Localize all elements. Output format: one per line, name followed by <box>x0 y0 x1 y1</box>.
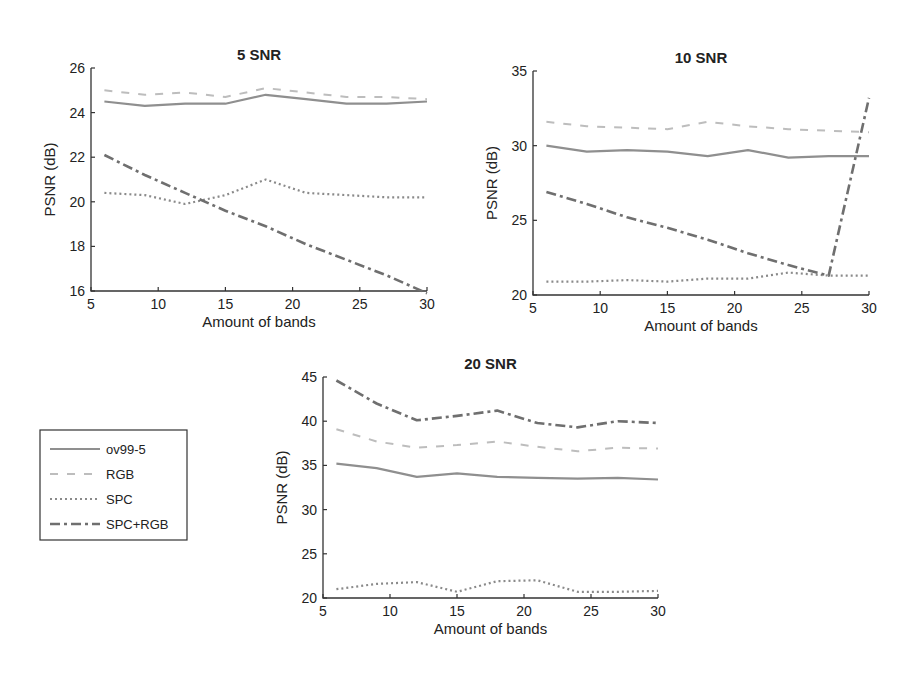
x-tick-label: 20 <box>727 300 743 316</box>
chart-title: 5 SNR <box>237 46 281 63</box>
x-tick-label: 20 <box>516 603 532 619</box>
y-tick-label: 26 <box>69 60 85 76</box>
x-tick-label: 30 <box>861 300 877 316</box>
x-tick-label: 15 <box>218 296 234 312</box>
chart-5-snr: 510152025301618202224265 SNRAmount of ba… <box>41 46 435 330</box>
y-axis-label: PSNR (dB) <box>483 146 500 220</box>
figure-canvas: 510152025301618202224265 SNRAmount of ba… <box>0 0 913 680</box>
x-tick-label: 30 <box>419 296 435 312</box>
series-line-ov99-5 <box>546 146 869 158</box>
series-line-spc <box>336 580 658 592</box>
x-tick-label: 10 <box>592 300 608 316</box>
legend-label: SPC+RGB <box>106 517 169 532</box>
y-axis-label: PSNR (dB) <box>41 142 58 216</box>
axes <box>323 377 658 598</box>
series-line-spc-rgb <box>104 155 427 293</box>
axes <box>533 71 869 295</box>
y-tick-label: 30 <box>301 502 317 518</box>
x-tick-label: 5 <box>87 296 95 312</box>
y-tick-label: 25 <box>511 212 527 228</box>
series-line-spc-rgb <box>546 98 869 276</box>
x-axis-label: Amount of bands <box>202 313 315 330</box>
series-line-rgb <box>336 429 658 451</box>
y-tick-label: 35 <box>301 457 317 473</box>
chart-20-snr: 5101520253020253035404520 SNRAmount of b… <box>273 355 666 637</box>
x-tick-label: 30 <box>650 603 666 619</box>
x-tick-label: 15 <box>660 300 676 316</box>
x-tick-label: 20 <box>285 296 301 312</box>
x-tick-label: 10 <box>150 296 166 312</box>
legend: ov99-5RGBSPCSPC+RGB <box>40 430 187 540</box>
y-tick-label: 30 <box>511 138 527 154</box>
y-tick-label: 20 <box>511 287 527 303</box>
y-tick-label: 45 <box>301 369 317 385</box>
x-axis-label: Amount of bands <box>644 317 757 334</box>
y-tick-label: 24 <box>69 105 85 121</box>
legend-label: RGB <box>106 467 134 482</box>
x-tick-label: 25 <box>583 603 599 619</box>
x-axis-label: Amount of bands <box>434 620 547 637</box>
chart-title: 10 SNR <box>675 49 728 66</box>
series-line-spc <box>546 273 869 282</box>
x-tick-label: 25 <box>352 296 368 312</box>
y-tick-label: 20 <box>69 194 85 210</box>
y-tick-label: 25 <box>301 546 317 562</box>
x-tick-label: 5 <box>529 300 537 316</box>
chart-title: 20 SNR <box>464 355 517 372</box>
legend-label: ov99-5 <box>106 442 146 457</box>
y-tick-label: 40 <box>301 413 317 429</box>
axes <box>91 68 427 291</box>
y-axis-label: PSNR (dB) <box>273 450 290 524</box>
y-tick-label: 35 <box>511 63 527 79</box>
series-line-rgb <box>104 88 427 99</box>
series-line-ov99-5 <box>336 464 658 480</box>
x-tick-label: 25 <box>794 300 810 316</box>
y-tick-label: 20 <box>301 590 317 606</box>
series-line-spc <box>104 180 427 205</box>
y-tick-label: 16 <box>69 283 85 299</box>
x-tick-label: 10 <box>382 603 398 619</box>
legend-label: SPC <box>106 492 133 507</box>
x-tick-label: 5 <box>319 603 327 619</box>
series-line-spc-rgb <box>336 381 658 428</box>
chart-10-snr: 510152025302025303510 SNRAmount of bands… <box>483 49 877 334</box>
x-tick-label: 15 <box>449 603 465 619</box>
series-line-rgb <box>546 122 869 132</box>
y-tick-label: 18 <box>69 238 85 254</box>
y-tick-label: 22 <box>69 149 85 165</box>
